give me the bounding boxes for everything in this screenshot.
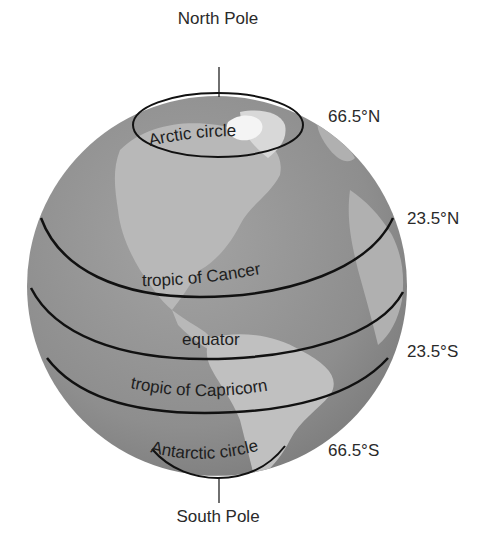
latitude-66-5-n-label: 66.5°N bbox=[328, 107, 380, 127]
north-pole-label: North Pole bbox=[178, 9, 258, 29]
south-pole-label: South Pole bbox=[176, 507, 259, 527]
equator-label: equator bbox=[182, 330, 240, 349]
latitude-66-5-s-label: 66.5°S bbox=[328, 441, 379, 461]
globe-svg: Arctic circle tropic of Cancer equator t… bbox=[0, 0, 500, 560]
latitude-23-5-s-label: 23.5°S bbox=[407, 342, 458, 362]
latitude-23-5-n-label: 23.5°N bbox=[407, 209, 459, 229]
